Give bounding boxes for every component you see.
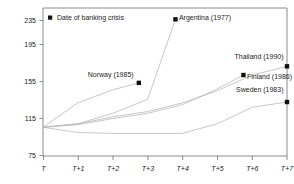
x-tick-label-T: T bbox=[41, 165, 46, 172]
series-line-norway-1985 bbox=[43, 83, 139, 127]
chart-figure: 75 115 155 195 235 T T+1 T+2 T+3 T+4 T+5… bbox=[0, 0, 294, 184]
crisis-marker-norway-1985 bbox=[137, 81, 141, 85]
x-tick-label-T1: T+1 bbox=[72, 165, 84, 172]
crisis-marker-finland-1986 bbox=[241, 73, 245, 77]
x-tick-label-T7: T+7 bbox=[281, 165, 294, 172]
legend-marker-icon bbox=[48, 16, 52, 20]
y-tick-label-115: 115 bbox=[25, 115, 36, 122]
crisis-marker-sweden-1983 bbox=[285, 100, 289, 104]
annotation-thailand-1990: Thailand (1990) bbox=[234, 53, 283, 61]
x-tick-label-T4: T+4 bbox=[177, 165, 189, 172]
x-tick-label-T3: T+3 bbox=[142, 165, 154, 172]
legend-label: Date of banking crisis bbox=[57, 14, 124, 22]
chart-canvas: 75 115 155 195 235 T T+1 T+2 T+3 T+4 T+5… bbox=[0, 0, 294, 184]
x-tick-label-T5: T+5 bbox=[211, 165, 223, 172]
y-tick-label-75: 75 bbox=[28, 152, 36, 159]
crisis-marker-thailand-1990 bbox=[285, 64, 289, 68]
y-tick-label-155: 155 bbox=[24, 78, 36, 85]
series-line-sweden-1983 bbox=[43, 102, 287, 133]
plot-frame bbox=[43, 8, 287, 156]
x-axis: T T+1 T+2 T+3 T+4 T+5 T+6 T+7 bbox=[41, 156, 294, 172]
annotation-finland-1986: Finland (1986) bbox=[247, 73, 292, 81]
annotation-sweden-1983: Sweden (1983) bbox=[236, 86, 283, 94]
y-tick-label-195: 195 bbox=[24, 41, 36, 48]
annotation-layer: Argentina (1977)Norway (1985)Thailand (1… bbox=[88, 14, 292, 94]
y-tick-label-235: 235 bbox=[24, 17, 36, 24]
crisis-marker-argentina-1977 bbox=[173, 17, 177, 21]
legend: Date of banking crisis bbox=[48, 14, 124, 22]
x-tick-label-T6: T+6 bbox=[246, 165, 258, 172]
y-axis: 75 115 155 195 235 bbox=[24, 17, 43, 159]
annotation-norway-1985: Norway (1985) bbox=[88, 71, 134, 79]
x-tick-label-T2: T+2 bbox=[107, 165, 119, 172]
annotation-argentina-1977: Argentina (1977) bbox=[179, 14, 231, 22]
